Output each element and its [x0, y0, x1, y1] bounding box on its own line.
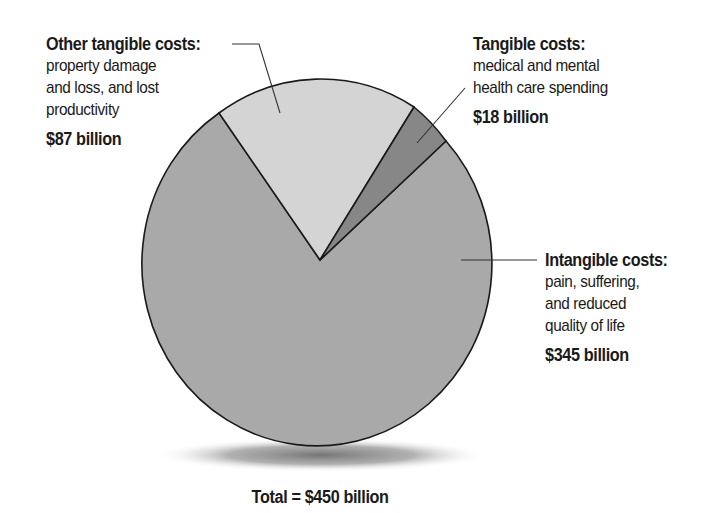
label-desc-line: productivity [46, 99, 200, 121]
label-other-tangible: Other tangible costs: property damage an… [46, 33, 218, 150]
total-caption: Total = $450 billion [0, 487, 640, 508]
label-value: $18 billion [473, 106, 608, 128]
label-title: Tangible costs: [473, 33, 608, 55]
label-desc-line: and loss, and lost [46, 77, 200, 99]
label-value: $87 billion [46, 128, 200, 150]
label-desc-line: quality of life [545, 315, 668, 337]
label-title: Other tangible costs: [46, 33, 200, 55]
label-title: Intangible costs: [545, 249, 668, 271]
label-desc-line: property damage [46, 55, 200, 77]
label-intangible: Intangible costs: pain, suffering, and r… [545, 249, 681, 366]
label-desc-line: pain, suffering, [545, 271, 668, 293]
label-desc-line: health care spending [473, 77, 608, 99]
total-text: Total = $450 billion [252, 487, 389, 508]
label-desc-line: medical and mental [473, 55, 608, 77]
label-value: $345 billion [545, 344, 668, 366]
label-desc-line: and reduced [545, 293, 668, 315]
label-tangible: Tangible costs: medical and mental healt… [473, 33, 623, 128]
